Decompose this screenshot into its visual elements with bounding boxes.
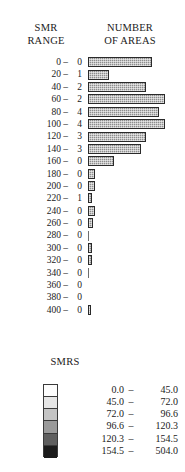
row-bar-container xyxy=(88,268,89,278)
row-range-label: 140 – xyxy=(10,143,68,155)
row-range-label: 60 – xyxy=(10,93,68,105)
row-bar-container xyxy=(88,70,109,80)
row-count-label: 0 xyxy=(68,217,82,229)
row-count-label: 1 xyxy=(68,192,82,204)
legend-range-low: 96.6 xyxy=(84,420,124,432)
row-count-label: 3 xyxy=(68,143,82,155)
legend-range-dash: – xyxy=(124,396,138,408)
row-bar-container xyxy=(88,243,92,253)
histogram-bar xyxy=(88,193,92,203)
row-count-label: 0 xyxy=(68,304,82,316)
histogram-bar xyxy=(88,57,152,67)
legend-range-low: 120.3 xyxy=(84,433,124,445)
row-count-label: 0 xyxy=(68,242,82,254)
histogram-row: 60 –2 xyxy=(0,93,185,105)
legend-range-dash: – xyxy=(124,408,138,420)
header-smr-range-line2: RANGE xyxy=(14,35,78,48)
row-bar-container xyxy=(88,169,95,179)
legend-body: 0.0–45.045.0–72.072.0–96.696.6–120.3120.… xyxy=(0,384,185,458)
histogram-row: 240 –0 xyxy=(0,205,185,217)
row-range-label: 20 – xyxy=(10,68,68,80)
header-number-of-areas: NUMBER OF AREAS xyxy=(86,22,174,47)
row-bar-container xyxy=(88,255,92,265)
legend-swatch xyxy=(44,385,57,397)
legend-range-dash: – xyxy=(124,420,138,432)
histogram-row: 380 –0 xyxy=(0,291,185,303)
row-range-label: 180 – xyxy=(10,168,68,180)
row-bar-container xyxy=(88,231,89,241)
row-count-label: 0 xyxy=(68,155,82,167)
legend-range-high: 72.0 xyxy=(138,396,178,408)
row-range-label: 400 – xyxy=(10,304,68,316)
legend-range-high: 120.3 xyxy=(138,420,178,432)
histogram-row: 20 –1 xyxy=(0,68,185,80)
row-bar-container xyxy=(88,57,152,67)
histogram-bar xyxy=(88,132,146,142)
legend-range-high: 45.0 xyxy=(138,384,178,396)
histogram-bar xyxy=(88,218,93,228)
legend-range-low: 154.5 xyxy=(84,445,124,457)
row-bar-container xyxy=(88,82,146,92)
row-bar-container xyxy=(88,218,93,228)
row-range-label: 360 – xyxy=(10,279,68,291)
histogram-row: 340 –0 xyxy=(0,267,185,279)
histogram-row: 160 –0 xyxy=(0,155,185,167)
row-bar-container xyxy=(88,107,159,117)
histogram-bar xyxy=(88,181,95,191)
histogram-row: 80 –4 xyxy=(0,106,185,118)
row-bar-container xyxy=(88,206,95,216)
histogram-row: 260 –0 xyxy=(0,217,185,229)
histogram-row: 40 –2 xyxy=(0,81,185,93)
row-count-label: 0 xyxy=(68,291,82,303)
row-range-label: 380 – xyxy=(10,291,68,303)
legend-range-dash: – xyxy=(124,433,138,445)
histogram-row: 360 –0 xyxy=(0,279,185,291)
histogram-row: 120 –3 xyxy=(0,130,185,142)
histogram-row: 140 –3 xyxy=(0,143,185,155)
row-range-label: 120 – xyxy=(10,130,68,142)
histogram-bar xyxy=(88,231,89,241)
row-bar-container xyxy=(88,132,146,142)
row-range-label: 200 – xyxy=(10,180,68,192)
row-count-label: 0 xyxy=(68,254,82,266)
row-count-label: 0 xyxy=(68,180,82,192)
row-count-label: 4 xyxy=(68,106,82,118)
legend-range-high: 96.6 xyxy=(138,408,178,420)
histogram-bar xyxy=(88,94,165,104)
row-bar-container xyxy=(88,144,141,154)
legend-range-low: 0.0 xyxy=(84,384,124,396)
histogram-row: 280 –0 xyxy=(0,229,185,241)
row-count-label: 1 xyxy=(68,68,82,80)
histogram-bar xyxy=(88,255,92,265)
legend-range-label: 0.0–45.0 xyxy=(66,384,178,396)
row-count-label: 0 xyxy=(68,168,82,180)
legend-range-low: 45.0 xyxy=(84,396,124,408)
header-smr-range: SMR RANGE xyxy=(14,22,78,47)
histogram-bar xyxy=(88,305,91,315)
row-range-label: 160 – xyxy=(10,155,68,167)
histogram-bar xyxy=(88,107,159,117)
row-range-label: 100 – xyxy=(10,118,68,130)
legend-range-dash: – xyxy=(124,384,138,396)
row-count-label: 2 xyxy=(68,81,82,93)
histogram-bar xyxy=(88,82,146,92)
histogram-bar xyxy=(88,144,141,154)
row-count-label: 0 xyxy=(68,56,82,68)
legend-range-label: 45.0–72.0 xyxy=(66,396,178,408)
header-number-of-areas-line2: OF AREAS xyxy=(86,35,174,48)
row-bar-container xyxy=(88,305,91,315)
header-smr-range-line1: SMR xyxy=(14,22,78,35)
row-bar-container xyxy=(88,193,92,203)
row-bar-container xyxy=(88,119,165,129)
row-bar-container xyxy=(88,156,114,166)
row-count-label: 0 xyxy=(68,205,82,217)
legend-swatch xyxy=(44,446,57,458)
histogram-row: 400 –0 xyxy=(0,304,185,316)
legend-swatch xyxy=(44,409,57,421)
histogram-row: 200 –0 xyxy=(0,180,185,192)
legend-range-label: 72.0–96.6 xyxy=(66,408,178,420)
histogram-bar xyxy=(88,70,109,80)
legend-range-labels: 0.0–45.045.0–72.072.0–96.696.6–120.3120.… xyxy=(66,384,178,457)
histogram-row: 320 –0 xyxy=(0,254,185,266)
histogram-bar xyxy=(88,206,95,216)
